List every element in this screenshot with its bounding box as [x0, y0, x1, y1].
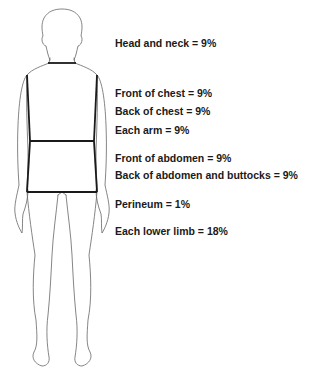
- right-leg-outline: [66, 192, 97, 366]
- body-outline-figure: [0, 0, 316, 380]
- left-arm-outline: [15, 75, 28, 233]
- right-arm-outline: [96, 75, 109, 233]
- label-head-neck: Head and neck = 9%: [115, 37, 216, 49]
- head-outline: [42, 9, 82, 60]
- label-perineum: Perineum = 1%: [115, 198, 190, 210]
- label-back-chest: Back of chest = 9%: [115, 105, 210, 117]
- left-leg-outline: [27, 192, 58, 366]
- label-front-abdomen: Front of abdomen = 9%: [115, 152, 231, 164]
- label-back-abdomen-buttocks: Back of abdomen and buttocks = 9%: [115, 169, 298, 181]
- label-each-arm: Each arm = 9%: [115, 124, 189, 136]
- label-each-lower-limb: Each lower limb = 18%: [115, 225, 228, 237]
- label-front-chest: Front of chest = 9%: [115, 87, 212, 99]
- torso-outline: [27, 63, 98, 192]
